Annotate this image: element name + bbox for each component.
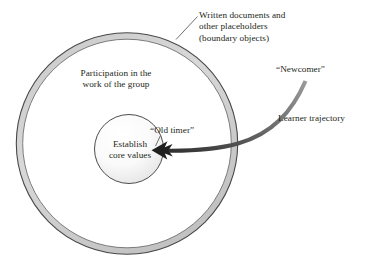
label-boundary-objects: Written documents and other placeholders… [199,10,285,44]
label-old-timer: “Old timer” [150,125,194,136]
boundary-objects-leader-line [176,17,198,40]
label-newcomer: “Newcomer” [276,64,325,75]
diagram-graphics [0,0,380,277]
diagram-canvas: Written documents and other placeholders… [0,0,380,277]
label-participation: Participation in the work of the group [56,68,176,91]
label-learner-trajectory: Learner trajectory [278,113,345,124]
label-core-values: Establish core values [90,139,170,162]
